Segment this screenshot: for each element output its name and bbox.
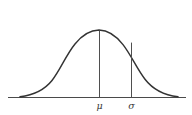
sigma-axis-label: σ [128,100,135,111]
mu-axis-label: μ [96,100,102,111]
distribution-plot-canvas: μ σ [0,0,192,115]
normal-distribution-figure: μ σ [0,0,192,115]
